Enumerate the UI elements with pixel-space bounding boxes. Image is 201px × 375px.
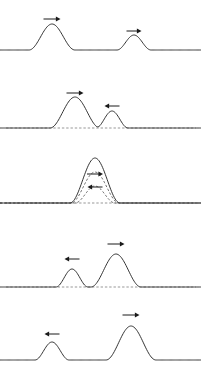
- arrow-left-icon: [65, 257, 80, 262]
- wave-curve-component-pulse-small: [0, 186, 201, 203]
- arrow-left-icon: [105, 104, 120, 109]
- panel-pulses-separated-far: [0, 313, 201, 361]
- panel-pulses-overlapping-start: [0, 91, 201, 129]
- arrow-right-icon: [123, 313, 140, 318]
- arrow-left-icon: [45, 332, 60, 337]
- arrow-head: [120, 242, 125, 247]
- figure-canvas: [0, 0, 201, 375]
- arrow-head: [45, 332, 50, 337]
- arrow-head: [98, 172, 103, 177]
- wave-curve-solid: [0, 97, 201, 128]
- wave-curve-resultant: [0, 158, 201, 203]
- panel-constructive-interference: [0, 158, 201, 203]
- wave-curve-solid: [0, 254, 201, 287]
- arrow-right-icon: [127, 29, 142, 34]
- arrow-right-icon: [44, 17, 61, 22]
- arrow-head: [79, 91, 84, 96]
- wave-curve-solid: [0, 24, 201, 50]
- arrow-head: [65, 257, 70, 262]
- panel-pulses-separating: [0, 242, 201, 288]
- arrow-head: [56, 17, 61, 22]
- wave-superposition-figure: [0, 0, 201, 375]
- arrow-head: [137, 29, 142, 34]
- wave-curve-solid: [0, 326, 201, 360]
- arrow-head: [135, 313, 140, 318]
- wave-curve-component-pulse-large: [0, 172, 201, 203]
- arrow-right-icon: [108, 242, 125, 247]
- arrow-right-icon: [67, 91, 84, 96]
- arrow-head: [105, 104, 110, 109]
- panel-pulses-approaching-far: [0, 17, 201, 51]
